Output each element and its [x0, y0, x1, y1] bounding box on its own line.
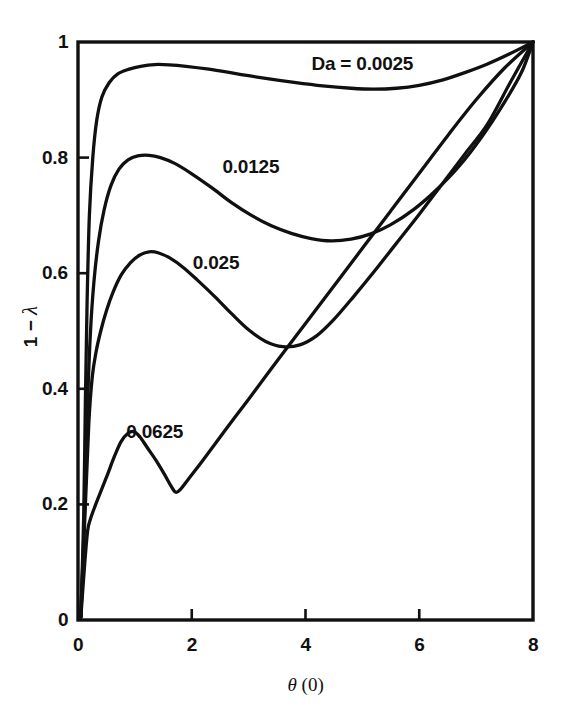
curve-label-0.025: 0.025	[193, 252, 240, 274]
y-tick-label-0.2: 0.2	[42, 493, 68, 515]
figure-panel: 0 0.2 0.4 0.6 0.8 1 0 2 4 6 8 Da = 0.002…	[0, 0, 563, 710]
y-tick-label-0.4: 0.4	[42, 378, 68, 400]
x-tick-label-6: 6	[414, 634, 424, 656]
x-tick-label-4: 4	[301, 634, 311, 656]
x-tick-label-2: 2	[187, 634, 197, 656]
y-tick-label-1: 1	[58, 31, 68, 53]
x-axis-title: θ (0)	[288, 674, 324, 696]
x-axis-title-theta: θ	[288, 674, 297, 695]
y-tick-label-0.8: 0.8	[42, 147, 68, 169]
x-axis-title-paren: (0)	[297, 674, 324, 695]
curve-label-0.0125: 0.0125	[222, 156, 279, 178]
y-axis-title: 1 − λ	[18, 305, 43, 346]
curve-label-0.0625: 0.0625	[126, 421, 183, 443]
y-tick-label-0: 0	[58, 609, 68, 631]
y-tick-label-0.6: 0.6	[42, 262, 68, 284]
x-tick-label-0: 0	[73, 634, 83, 656]
plot-area	[0, 0, 563, 710]
x-tick-label-8: 8	[528, 634, 538, 656]
y-axis-title-prefix: 1 −	[20, 314, 41, 346]
y-axis-title-lambda: λ	[18, 305, 42, 314]
curve-label-da-0.0025: Da = 0.0025	[311, 53, 413, 75]
